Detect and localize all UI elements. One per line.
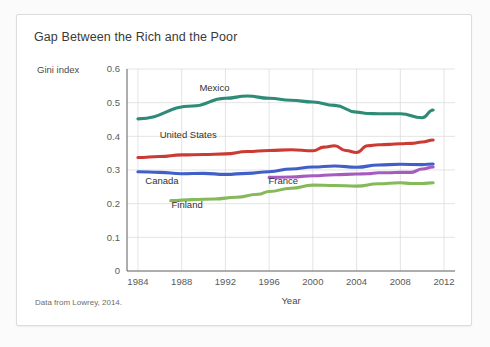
series-label-canada: Canada xyxy=(145,175,179,186)
x-axis-title: Year xyxy=(281,295,300,306)
series-label-finland: Finland xyxy=(172,199,203,210)
series-label-united-states: United States xyxy=(160,129,217,140)
series-label-mexico: Mexico xyxy=(199,82,229,93)
series-line-mexico xyxy=(138,96,433,119)
x-axis-tick-label: 1988 xyxy=(171,276,192,287)
series-line-finland xyxy=(171,183,433,201)
x-axis-tick-label: 1984 xyxy=(127,276,148,287)
y-axis-tick-label: 0.2 xyxy=(107,198,120,209)
x-axis-tick-label: 2004 xyxy=(346,276,367,287)
figure-card: Gap Between the Rich and the Poor Gini i… xyxy=(16,14,472,326)
series-label-france: France xyxy=(269,175,299,186)
y-axis-tick-label: 0 xyxy=(115,265,120,276)
y-axis-tick-label: 0.4 xyxy=(107,131,120,142)
line-chart: 00.10.20.30.40.50.6198419881992199620002… xyxy=(17,15,473,327)
x-axis-tick-label: 1996 xyxy=(259,276,280,287)
y-axis-tick-label: 0.5 xyxy=(107,97,120,108)
x-axis-tick-label: 2000 xyxy=(302,276,323,287)
y-axis-tick-label: 0.3 xyxy=(107,164,120,175)
x-axis-tick-label: 1992 xyxy=(215,276,236,287)
y-axis-tick-label: 0.6 xyxy=(107,63,120,74)
x-axis-tick-label: 2012 xyxy=(433,276,454,287)
y-axis-tick-label: 0.1 xyxy=(107,232,120,243)
source-note: Data from Lowrey, 2014. xyxy=(35,298,122,307)
series-line-united-states xyxy=(138,140,433,157)
x-axis-tick-label: 2008 xyxy=(390,276,411,287)
